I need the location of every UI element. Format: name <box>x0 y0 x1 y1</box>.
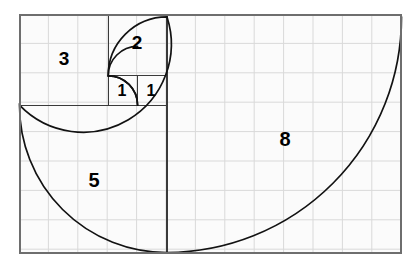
label-square-1-right: 1 <box>147 83 156 99</box>
panel-background <box>19 14 401 253</box>
label-square-2: 2 <box>132 33 143 52</box>
label-square-1-left: 1 <box>118 83 127 99</box>
label-square-3: 3 <box>59 49 70 68</box>
fibonacci-spiral-figure: 3 2 1 1 5 8 <box>0 0 419 269</box>
spiral-diagram-canvas <box>0 0 419 269</box>
label-square-5: 5 <box>88 170 99 190</box>
label-square-8: 8 <box>279 129 290 149</box>
